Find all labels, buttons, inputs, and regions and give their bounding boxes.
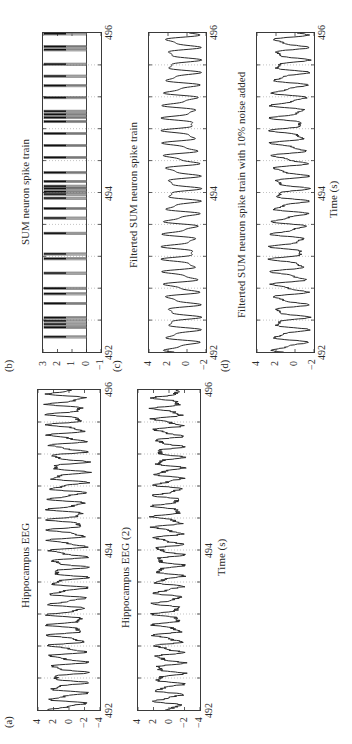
panel-a2-ytick: −2 — [179, 717, 189, 728]
panel-a-letter: (a) — [4, 716, 15, 728]
panel-a2-xlabel: Time (s) — [216, 539, 227, 576]
panel-b-xtick-end: 496 — [104, 25, 114, 40]
panel-a-title: Hippocampus EEG — [20, 523, 31, 608]
panel-a2-xtick-mid: 494 — [204, 543, 214, 558]
panel-d-ytick: 0 — [289, 361, 299, 366]
panel-a2-xtick-end: 496 — [204, 382, 214, 397]
panel-c-letter: (c) — [112, 360, 123, 372]
panel-c-title: Filterted SUM neuron spike train — [128, 122, 139, 268]
hippocampus-eeg-plot — [38, 390, 100, 710]
panel-a2-ytick: −4 — [194, 717, 204, 728]
panel-b-letter: (b) — [4, 360, 15, 372]
panel-c-ytick: 2 — [162, 361, 172, 366]
panel-c-xtick-start: 492 — [209, 345, 219, 360]
panel-b-ytick: 0 — [81, 361, 91, 366]
panel-d-title: Filterted SUM neuron spike train with 10… — [236, 72, 247, 318]
panel-a2-ytick: 4 — [132, 719, 142, 724]
panel-d-ytick: −2 — [307, 359, 317, 370]
panel-a-ytick: 2 — [48, 719, 58, 724]
panel-c-ytick: 4 — [143, 361, 153, 366]
panel-a2-title: Hippocampus EEG (2) — [120, 527, 131, 628]
noisy-filtered-spike-plot — [257, 33, 314, 352]
panel-c-axes — [148, 32, 207, 353]
panel-d-xtick-start: 492 — [317, 345, 327, 360]
panel-a2-axes — [137, 389, 201, 711]
panel-c-ytick: 0 — [181, 361, 191, 366]
filtered-spike-plot — [149, 33, 206, 352]
panel-b-axes — [42, 32, 102, 353]
panel-b-xtick-mid: 494 — [104, 186, 114, 201]
panel-a-ytick: 0 — [64, 719, 74, 724]
panel-d-ytick: 4 — [251, 361, 261, 366]
hippocampus-eeg-2-plot — [138, 390, 200, 710]
panel-b-ytick: 2 — [52, 361, 62, 366]
panel-a-axes — [37, 389, 101, 711]
panel-a2-xtick-start: 492 — [204, 703, 214, 718]
panel-a-xtick-start: 492 — [104, 703, 114, 718]
panel-d-ytick: 2 — [270, 361, 280, 366]
panel-b-ytick: −1 — [95, 359, 105, 370]
panel-a2-ytick: 0 — [164, 719, 174, 724]
panel-a-ytick: 4 — [32, 719, 42, 724]
panel-c-ytick: −2 — [199, 359, 209, 370]
panel-a-ytick: −4 — [94, 717, 104, 728]
panel-a2-ytick: 2 — [148, 719, 158, 724]
panel-b-xtick-start: 492 — [104, 345, 114, 360]
panel-b-ytick: 1 — [66, 361, 76, 366]
panel-d-xtick-mid: 494 — [317, 186, 327, 201]
panel-b-ytick: 3 — [38, 361, 48, 366]
panel-c-xtick-end: 496 — [209, 25, 219, 40]
spike-train-plot — [43, 33, 101, 352]
panel-d-axes — [256, 32, 315, 353]
figure: (b) SUM neuron spike train 3 2 1 0 −1 49… — [0, 0, 352, 744]
panel-b-title: SUM neuron spike train — [20, 139, 31, 245]
panel-a-xtick-mid: 494 — [104, 543, 114, 558]
panel-a-ytick: −2 — [79, 717, 89, 728]
panel-a-xtick-end: 496 — [104, 382, 114, 397]
panel-d-xtick-end: 496 — [317, 25, 327, 40]
panel-d-xlabel: Time (s) — [328, 181, 339, 218]
panel-c-xtick-mid: 494 — [209, 186, 219, 201]
panel-d-letter: (d) — [220, 360, 231, 372]
